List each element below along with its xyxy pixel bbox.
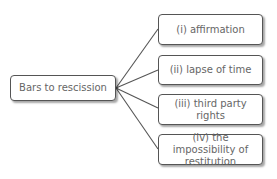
child-node-label: (ii) lapse of time — [170, 64, 252, 76]
root-node: Bars to rescission — [10, 75, 116, 101]
child-node-1: (i) affirmation — [158, 14, 263, 45]
child-node-label: (i) affirmation — [176, 24, 245, 36]
child-node-3: (iii) third party rights — [158, 94, 263, 125]
child-node-4: (iv) the impossibility of restitution — [158, 134, 263, 165]
child-node-label: (iii) third party rights — [161, 98, 260, 122]
child-node-label: (iv) the impossibility of restitution — [161, 132, 260, 168]
connector-4 — [116, 88, 158, 149]
child-node-2: (ii) lapse of time — [158, 55, 263, 85]
root-node-label: Bars to rescission — [19, 82, 107, 94]
